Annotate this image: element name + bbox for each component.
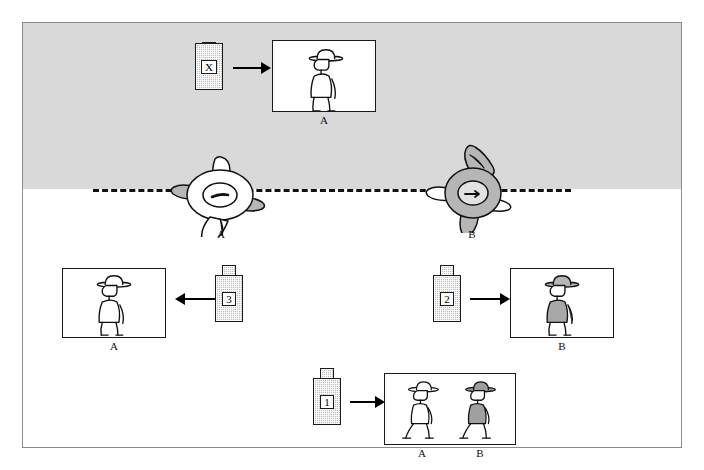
photo-3-caption-a: A [102,340,126,352]
photo-2-caption-b: B [550,340,574,352]
photo-x-caption-a: A [312,114,336,126]
scene-figure-b-label: B [460,228,484,240]
arrow-camera-1-to-photo-1 [350,396,385,408]
camera-2-label: 2 [440,292,454,306]
arrow-camera-x-to-photo-x [233,62,271,74]
photo-3-illustration [63,269,165,337]
photo-2-illustration [511,269,613,337]
photo-1-caption-b: B [468,447,492,459]
photo-3[interactable] [62,268,166,338]
diagram-frame: X [22,22,682,448]
camera-1-label: 1 [320,395,334,409]
scene-figure-b[interactable] [418,141,528,233]
arrow-camera-3-to-photo-3 [175,293,217,305]
scene-figure-b-illustration [418,141,528,233]
arrow-camera-2-to-photo-2 [470,293,510,305]
photo-x[interactable] [272,40,376,112]
photo-2[interactable] [510,268,614,338]
camera-2-body: 2 [433,275,461,322]
scene-figure-a[interactable] [166,145,276,237]
camera-x-body: X [195,43,223,90]
camera-x-label: X [201,60,217,74]
camera-3-label: 3 [222,292,236,306]
camera-3-body: 3 [215,275,243,322]
photo-1-illustration [385,374,515,444]
photo-x-illustration [273,41,375,111]
scene-figure-a-illustration [166,145,276,237]
scene-figure-a-label: A [209,228,233,240]
diagram-canvas: X [0,0,704,470]
photo-1-caption-a: A [410,447,434,459]
camera-1-body: 1 [313,378,341,425]
photo-1[interactable] [384,373,516,445]
